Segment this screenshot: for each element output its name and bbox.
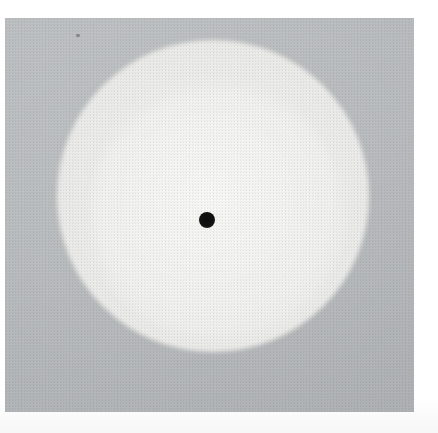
dust-speck-artifact: [76, 34, 80, 37]
bright-circular-disc: [57, 40, 369, 352]
scanned-image-canvas: [0, 0, 438, 433]
plate-caption: [0, 0, 1, 1]
center-marker-dot: [199, 212, 215, 228]
image-plate: [5, 18, 414, 412]
